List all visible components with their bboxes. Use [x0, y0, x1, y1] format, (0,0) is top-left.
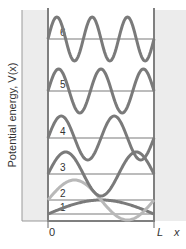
- energy-levels: 123456: [48, 27, 154, 214]
- x-axis-label: x: [173, 226, 180, 238]
- level-label-4: 4: [60, 126, 66, 137]
- y-axis-label: Potential energy, V(x): [6, 40, 20, 190]
- right-wall: [154, 10, 186, 221]
- level-label-3: 3: [60, 162, 66, 173]
- left-wall: [22, 10, 48, 221]
- level-label-2: 2: [60, 188, 66, 199]
- particle-in-box-diagram: 123456 0 L x: [0, 0, 186, 249]
- x-end-label: L: [157, 226, 163, 238]
- x-origin-label: 0: [49, 226, 55, 238]
